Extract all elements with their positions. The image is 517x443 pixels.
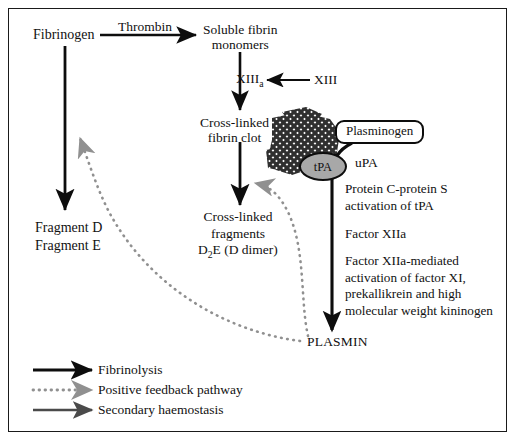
node-xfrag-line2: fragments	[198, 226, 278, 243]
note-factor-xiia-mediated: Factor XIIa-mediated activation of facto…	[345, 253, 493, 319]
note-3-line-1: Factor XIIa-mediated	[345, 253, 493, 270]
note-3-line-3: prekallikrein and high	[345, 286, 493, 303]
node-plasminogen: Plasminogen	[335, 120, 424, 144]
node-cross-linked-fragments: Cross-linked fragments D2E (D dimer)	[198, 209, 278, 261]
node-factor-xiii: XIII	[314, 72, 337, 87]
legend-label-fibrinolysis: Fibrinolysis	[98, 362, 163, 378]
note-2-line-1: Factor XIIa	[345, 226, 406, 243]
node-fragment-e: Fragment E	[35, 237, 102, 255]
node-tpa: tPA	[299, 152, 347, 181]
node-fragment-d: Fragment D	[35, 219, 102, 237]
legend-label-secondary-haemostasis: Secondary haemostasis	[98, 402, 224, 418]
node-xfrag-d: D	[198, 242, 208, 257]
note-protein-c-protein-s: Protein C-protein S activation of tPA	[345, 181, 448, 214]
note-1-line-1: Protein C-protein S	[345, 181, 448, 198]
node-soluble-fibrin-line2: monomers	[203, 37, 278, 52]
note-1-line-2: activation of tPA	[345, 198, 448, 215]
node-soluble-fibrin-monomers: Soluble fibrin monomers	[203, 22, 278, 52]
node-soluble-fibrin-line1: Soluble fibrin	[203, 22, 278, 37]
node-xfrag-line3: D2E (D dimer)	[198, 242, 278, 261]
node-fibrinogen: Fibrinogen	[33, 27, 94, 43]
legend-label-positive-feedback-pathway: Positive feedback pathway	[98, 382, 243, 398]
note-3-line-4: molecular weight kininogen	[345, 303, 493, 320]
note-factor-xiia: Factor XIIa	[345, 226, 406, 243]
node-clot-line2: fibrin clot	[200, 130, 269, 145]
node-cross-linked-fibrin-clot: Cross-linked fibrin clot	[200, 115, 269, 145]
node-xfrag-line1: Cross-linked	[198, 209, 278, 226]
label-thrombin: Thrombin	[118, 19, 172, 34]
node-clot-line1: Cross-linked	[200, 115, 269, 130]
node-xfrag-e: E (D dimer)	[213, 242, 278, 257]
note-3-line-2: activation of factor XI,	[345, 270, 493, 287]
node-xiiia-base: XIII	[236, 71, 259, 86]
node-plasmin: PLASMIN	[307, 334, 368, 349]
fibrinolysis-diagram: Fibrinogen Thrombin Soluble fibrin monom…	[0, 0, 517, 443]
label-upa: uPA	[355, 155, 378, 170]
node-fragments-d-e: Fragment D Fragment E	[35, 219, 102, 255]
node-xiiia-subscript: a	[259, 78, 263, 89]
node-factor-xiiia: XIIIa	[236, 71, 264, 90]
